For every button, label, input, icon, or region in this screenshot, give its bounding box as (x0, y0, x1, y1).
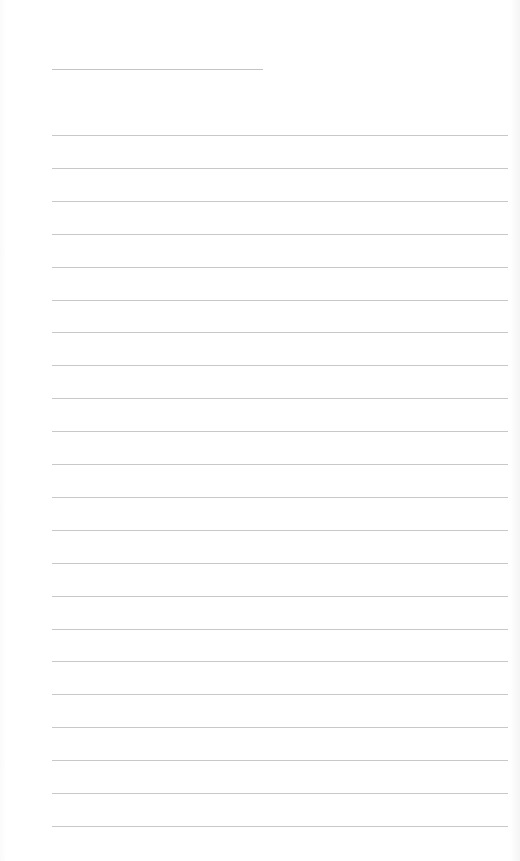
ruled-line (52, 694, 508, 695)
title-underline (52, 69, 263, 70)
ruled-line (52, 793, 508, 794)
ruled-line (52, 497, 508, 498)
ruled-line (52, 267, 508, 268)
ruled-line (52, 431, 508, 432)
ruled-line (52, 596, 508, 597)
ruled-line (52, 168, 508, 169)
ruled-line (52, 727, 508, 728)
ruled-line (52, 234, 508, 235)
ruled-line (52, 365, 508, 366)
lined-paper-page (0, 0, 520, 861)
ruled-line (52, 826, 508, 827)
ruled-line (52, 661, 508, 662)
ruled-line (52, 464, 508, 465)
ruled-line (52, 530, 508, 531)
ruled-line (52, 201, 508, 202)
ruled-line (52, 332, 508, 333)
ruled-line (52, 300, 508, 301)
ruled-line (52, 760, 508, 761)
ruled-line (52, 563, 508, 564)
ruled-line (52, 629, 508, 630)
ruled-line (52, 398, 508, 399)
ruled-line (52, 135, 508, 136)
